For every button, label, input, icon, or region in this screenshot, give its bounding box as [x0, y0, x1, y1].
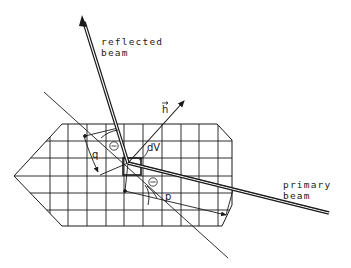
crystal-grid	[0, 110, 240, 240]
path-p	[124, 163, 233, 215]
q-label: q	[92, 149, 98, 160]
h-label: h	[162, 104, 168, 115]
scattering-vector-h	[128, 101, 184, 163]
theta-upper-icon	[110, 142, 118, 150]
primary-beam-label-2: beam	[283, 190, 311, 201]
p-label: p	[165, 191, 171, 202]
primary-beam-label-1: primary	[283, 179, 331, 190]
theta-lower-icon	[149, 178, 157, 186]
dV-label: dV	[147, 142, 160, 153]
reflected-beam-label-1: reflected	[101, 36, 163, 47]
reflected-beam-arrow-icon	[79, 15, 87, 27]
reflected-beam-label-2: beam	[101, 47, 129, 58]
h-vector-label: h	[162, 102, 168, 116]
diffraction-diagram: reflected beam primary beam h dV q p	[0, 0, 351, 268]
